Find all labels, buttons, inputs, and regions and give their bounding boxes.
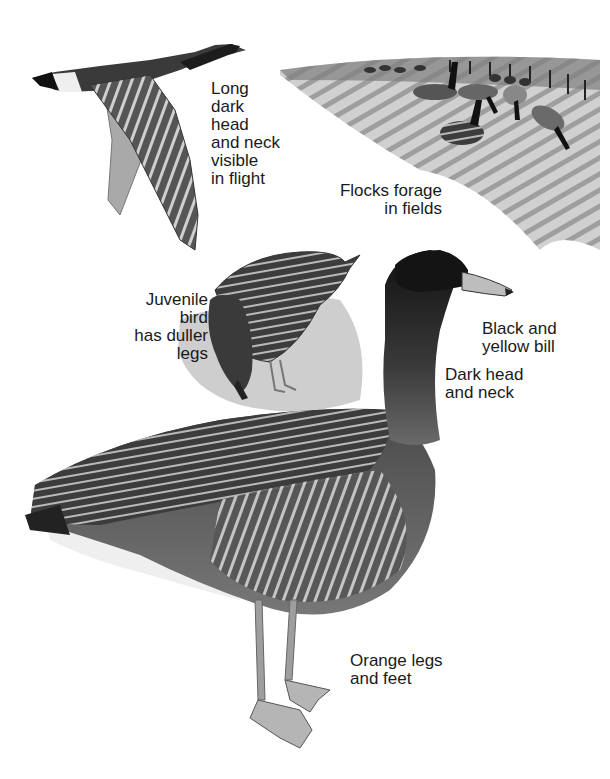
field-guide-plate: Long dark head and neck visible in fligh… (0, 0, 610, 779)
label-legs: Orange legs and feet (350, 652, 443, 688)
label-flocks: Flocks forage in fields (318, 182, 442, 218)
label-bill: Black and yellow bill (482, 320, 557, 356)
label-flight: Long dark head and neck visible in fligh… (211, 80, 280, 188)
label-head-neck: Dark head and neck (445, 366, 523, 402)
flock-in-field (280, 57, 600, 250)
label-juvenile: Juvenile bird has duller legs (90, 291, 208, 363)
